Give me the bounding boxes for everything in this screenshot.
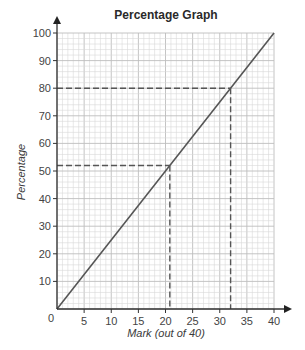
x-tick-label: 30 (214, 315, 226, 327)
y-tick-label: 90 (39, 55, 51, 67)
y-tick-label: 100 (33, 27, 51, 39)
y-tick-label: 20 (39, 248, 51, 260)
x-tick-label: 25 (187, 315, 199, 327)
y-tick-label: 40 (39, 193, 51, 205)
y-tick-label: 60 (39, 137, 51, 149)
x-tick-label: 5 (81, 315, 87, 327)
chart-title: Percentage Graph (114, 8, 217, 22)
y-tick-label: 30 (39, 220, 51, 232)
y-tick-label: 80 (39, 82, 51, 94)
origin-label: 0 (48, 312, 54, 324)
y-axis-arrow-icon (53, 16, 61, 24)
percentage-chart: 5101520253035401020304050607080901000 Pe… (0, 0, 305, 350)
x-tick-label: 10 (105, 315, 117, 327)
x-tick-label: 20 (159, 315, 171, 327)
y-tick-label: 50 (39, 165, 51, 177)
x-tick-label: 35 (241, 315, 253, 327)
y-axis-label: Percentage (15, 144, 27, 200)
x-tick-label: 40 (268, 315, 280, 327)
x-tick-label: 15 (132, 315, 144, 327)
y-tick-label: 70 (39, 110, 51, 122)
x-axis-arrow-icon (284, 305, 292, 313)
y-tick-label: 10 (39, 275, 51, 287)
x-axis-label: Mark (out of 40) (127, 327, 205, 339)
